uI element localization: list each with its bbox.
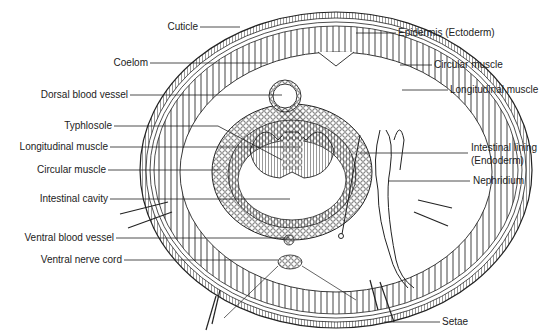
label-longitudinal-muscle-inner: Longitudinal muscle: [20, 141, 108, 153]
label-nephridium: Nephridium: [473, 175, 524, 187]
label-ventral-nerve-cord: Ventral nerve cord: [41, 254, 122, 266]
label-circular-muscle-outer: Circular muscle: [434, 59, 503, 71]
label-setae: Setae: [442, 316, 468, 328]
label-dorsal-blood-vessel: Dorsal blood vessel: [41, 89, 128, 101]
label-coelom: Coelom: [114, 57, 148, 69]
label-typhlosole: Typhlosole: [64, 120, 112, 132]
label-intestinal-lining: Intestinal lining: [471, 142, 537, 154]
label-ventral-blood-vessel: Ventral blood vessel: [24, 232, 114, 244]
earthworm-cross-section-diagram: Cuticle Coelom Dorsal blood vessel Typhl…: [0, 0, 552, 336]
label-longitudinal-muscle-outer: Longitudinal muscle: [450, 84, 538, 96]
label-cuticle: Cuticle: [167, 21, 198, 33]
label-epidermis: Epidermis (Ectoderm): [398, 27, 495, 39]
label-intestinal-cavity: Intestinal cavity: [40, 193, 108, 205]
ventral-nerve-cord: [278, 255, 302, 269]
label-circular-muscle-inner: Circular muscle: [37, 164, 106, 176]
label-endoderm: (Endoderm): [471, 155, 524, 167]
